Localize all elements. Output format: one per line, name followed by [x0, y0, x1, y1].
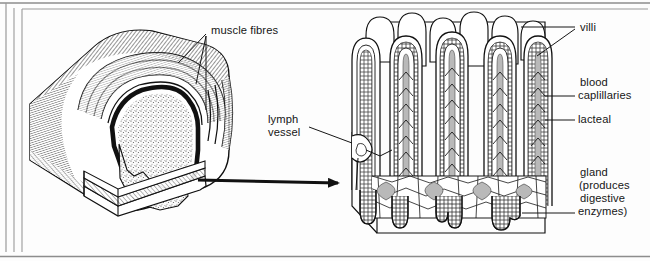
label-gland-line4: enzymes) — [578, 205, 627, 218]
magnify-arrow — [198, 180, 338, 183]
label-gland-line1: gland — [580, 166, 608, 179]
label-lacteal: lacteal — [578, 113, 611, 126]
label-muscle-fibres: muscle fibres — [211, 24, 278, 37]
label-blood-capillaries-line2: caplillaries — [578, 89, 631, 102]
label-gland-line3: digestive — [580, 192, 625, 205]
label-villi: villi — [580, 21, 596, 34]
label-gland-line2: (produces — [579, 179, 630, 192]
villi-block — [352, 12, 552, 233]
figure-canvas: muscle fibres lymph vessel villi blood c… — [0, 0, 650, 261]
label-blood-capillaries-line1: blood — [580, 76, 608, 89]
intestine-cylinder — [30, 30, 233, 216]
label-lymph-vessel-line2: vessel — [268, 126, 300, 139]
intestine-villi-diagram — [0, 0, 650, 261]
label-lymph-vessel-line1: lymph — [268, 113, 298, 126]
